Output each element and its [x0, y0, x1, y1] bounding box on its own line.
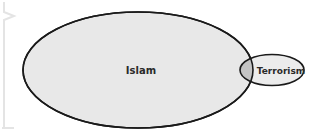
- decorative-bracket: [2, 2, 14, 128]
- set-terrorism-label: Terrorism: [257, 66, 305, 76]
- set-islam-label: Islam: [126, 65, 156, 76]
- venn-diagram: Islam Terrorism: [0, 0, 322, 137]
